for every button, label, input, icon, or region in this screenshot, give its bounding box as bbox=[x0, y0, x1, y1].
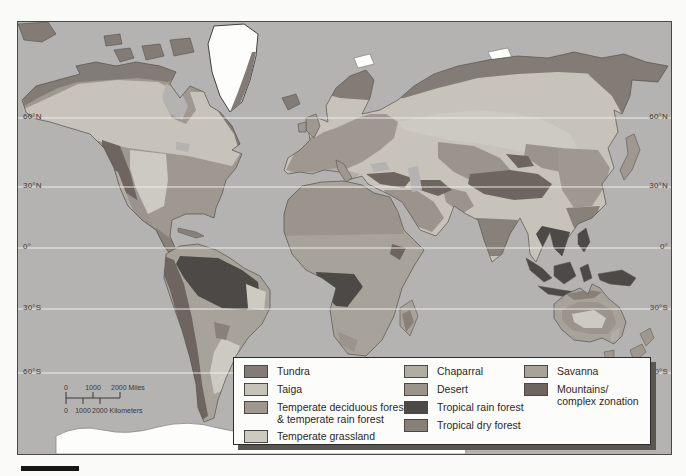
legend-item-tundra: Tundra bbox=[244, 365, 404, 378]
legend-label-line1: Mountains/ bbox=[557, 383, 639, 395]
legend-swatch-tundra bbox=[244, 365, 268, 378]
lat-label-right-60n: 60°N bbox=[649, 113, 668, 121]
legend-column-2: Chaparral Desert Tropical rain forest Tr… bbox=[404, 365, 524, 444]
lat-label-right-30s: 30°S bbox=[650, 304, 668, 312]
legend-item-temperate-grassland: Temperate grassland bbox=[244, 430, 404, 443]
lat-label-left-30n: 30°N bbox=[23, 182, 42, 190]
scale-miles-2000: 2000 Miles bbox=[111, 384, 145, 391]
biome-legend: Tundra Taiga Temperate deciduous forest&… bbox=[233, 357, 651, 445]
legend-label-line2: & temperate rain forest bbox=[277, 413, 407, 425]
legend-swatch-tropical-dry-forest bbox=[404, 419, 428, 432]
legend-item-mountains: Mountains/complex zonation bbox=[524, 383, 650, 407]
legend-label: Temperate grassland bbox=[277, 430, 375, 442]
legend-item-temperate-deciduous: Temperate deciduous forest& temperate ra… bbox=[244, 401, 404, 425]
lat-label-left-60n: 60°N bbox=[23, 113, 42, 121]
legend-column-1: Tundra Taiga Temperate deciduous forest&… bbox=[244, 365, 404, 444]
textbook-biome-map-page: 60°N 30°N 0° 30°S 60°S 60°N 30°N 0° 30°S… bbox=[0, 0, 686, 476]
legend-swatch-temperate-grassland bbox=[244, 430, 268, 443]
legend-item-taiga: Taiga bbox=[244, 383, 404, 396]
legend-label: Desert bbox=[437, 383, 468, 395]
legend-column-3: Savanna Mountains/complex zonation bbox=[524, 365, 650, 444]
scale-km-0: 0 bbox=[64, 407, 68, 414]
legend-label: Chaparral bbox=[437, 365, 483, 377]
accent-bar bbox=[21, 466, 79, 471]
legend-swatch-tropical-rain-forest bbox=[404, 401, 428, 414]
lat-label-left-0: 0° bbox=[23, 243, 31, 251]
scale-km-2000: 2000 Kilometers bbox=[92, 407, 143, 414]
legend-item-desert: Desert bbox=[404, 383, 524, 396]
ireland bbox=[298, 122, 306, 132]
legend-swatch-desert bbox=[404, 383, 428, 396]
scale-miles-0: 0 bbox=[64, 384, 68, 391]
legend-label: Tropical dry forest bbox=[437, 419, 521, 431]
legend-label: Tropical rain forest bbox=[437, 401, 524, 413]
legend-swatch-mountains bbox=[524, 383, 548, 396]
lat-label-right-0: 0° bbox=[660, 243, 668, 251]
legend-item-tropical-dry-forest: Tropical dry forest bbox=[404, 419, 524, 432]
legend-label: Tundra bbox=[277, 365, 310, 377]
legend-swatch-taiga bbox=[244, 383, 268, 396]
lat-label-right-30n: 30°N bbox=[649, 182, 668, 190]
legend-label: Mountains/complex zonation bbox=[557, 383, 639, 407]
legend-swatch-chaparral bbox=[404, 365, 428, 378]
legend-label: Taiga bbox=[277, 383, 302, 395]
lat-label-left-60s: 60°S bbox=[23, 368, 41, 376]
legend-label: Savanna bbox=[557, 365, 598, 377]
lat-label-right-60s: 60°S bbox=[650, 368, 668, 376]
legend-item-savanna: Savanna bbox=[524, 365, 650, 378]
legend-item-tropical-rain-forest: Tropical rain forest bbox=[404, 401, 524, 414]
legend-label: Temperate deciduous forest& temperate ra… bbox=[277, 401, 407, 425]
legend-swatch-savanna bbox=[524, 365, 548, 378]
scale-bar: 0 1000 2000 Miles 0 1000 2000 Kilometers bbox=[58, 378, 228, 424]
scale-km-1000: 1000 bbox=[75, 407, 91, 414]
legend-label-line1: Temperate deciduous forest bbox=[277, 401, 407, 413]
lat-label-left-30s: 30°S bbox=[23, 304, 41, 312]
legend-item-chaparral: Chaparral bbox=[404, 365, 524, 378]
legend-label-line2: complex zonation bbox=[557, 395, 639, 407]
scale-miles-1000: 1000 bbox=[85, 384, 101, 391]
legend-swatch-temperate-deciduous bbox=[244, 401, 268, 414]
arctic-island bbox=[104, 34, 122, 46]
